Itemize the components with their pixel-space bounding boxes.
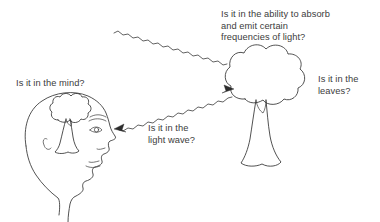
upper-lip-line [89,161,99,162]
brow-line-2 [89,119,106,121]
illustration-canvas: Is it in the mind? Is it in the ability … [0,0,380,222]
label-is-it-in-the-ability-to-absorb: Is it in the ability to absorb and emit … [221,9,330,44]
tree-figure [225,45,304,166]
incoming-wave-arrowhead [222,85,234,93]
head-outline [25,93,115,222]
incoming-wave-path [114,31,227,65]
ear-outline [43,138,51,149]
tree-canopy [225,45,304,105]
eye-pupil [94,128,98,133]
outgoing-wave-arrowhead [114,124,126,132]
nostril-line [97,148,105,149]
brain-tree-trunk [55,119,79,154]
label-is-it-in-the-leaves: Is it in the leaves? [318,74,358,97]
brain-tree-figure [50,93,91,153]
label-is-it-in-the-light-wave: Is it in the light wave? [148,123,195,146]
head-profile-figure [25,93,115,222]
jaw-line [26,146,60,215]
tree-trunk [241,100,281,166]
brain-tree-canopy [50,93,91,122]
brow-line [90,115,106,117]
incoming-light-wave [114,31,234,93]
label-is-it-in-the-mind: Is it in the mind? [16,78,85,90]
